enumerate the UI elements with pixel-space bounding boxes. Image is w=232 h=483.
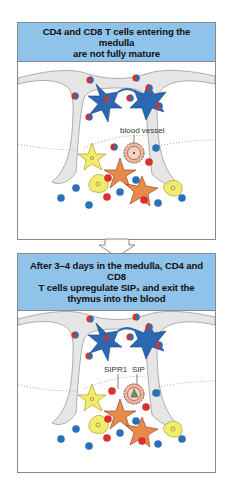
blood-vessel bbox=[124, 143, 144, 163]
t-cells-red bbox=[103, 158, 153, 204]
header-line: CD4 and CD8 T cells entering the medulla bbox=[24, 26, 209, 48]
header-line: thymus into the blood bbox=[24, 293, 209, 304]
header-line: are not fully mature bbox=[24, 48, 209, 59]
header-line: T cells upregulate SIP₁ and exit the bbox=[24, 282, 209, 293]
header-line: After 3–4 days in the medulla, CD4 and C… bbox=[24, 260, 209, 282]
panel-immature: CD4 and CD8 T cells entering the medulla… bbox=[17, 22, 216, 240]
panel-mature-exit: After 3–4 days in the medulla, CD4 and C… bbox=[17, 253, 216, 473]
blood-vessel-label: blood vessel bbox=[120, 126, 165, 135]
panel-header: After 3–4 days in the medulla, CD4 and C… bbox=[18, 254, 215, 311]
sipr1-label: SIPR1 bbox=[104, 365, 128, 374]
medulla-illustration: blood vessel bbox=[18, 62, 215, 239]
epithelial-cell bbox=[104, 399, 158, 447]
sip-label: SIP bbox=[132, 365, 145, 374]
medulla-illustration: SIPR1 SIP bbox=[18, 311, 215, 472]
panel-header: CD4 and CD8 T cells entering the medulla… bbox=[18, 23, 215, 62]
blood-vessel bbox=[124, 384, 144, 404]
